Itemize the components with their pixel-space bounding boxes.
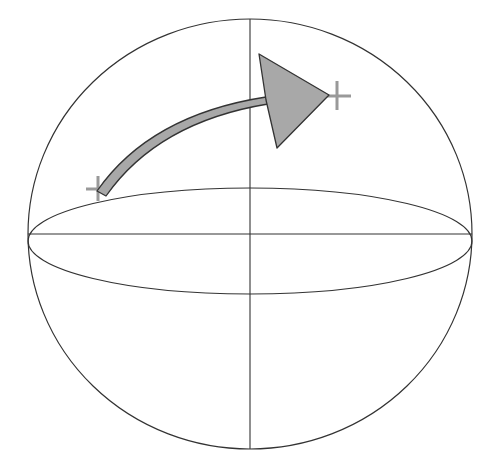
diagram-canvas — [0, 0, 493, 463]
rotation-arrow-shaft — [97, 97, 268, 196]
rotation-arrowhead-icon — [259, 54, 329, 148]
sphere-diagram — [0, 0, 493, 463]
end-point-marker-icon — [326, 81, 351, 110]
